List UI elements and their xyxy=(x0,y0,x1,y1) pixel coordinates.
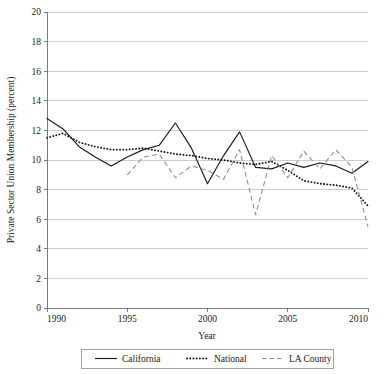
y-tick-label-20: 20 xyxy=(32,7,42,17)
legend-label-national: National xyxy=(214,354,247,364)
gridlines-group xyxy=(47,12,368,278)
series-line-california xyxy=(47,119,368,184)
y-tick-label-14: 14 xyxy=(32,96,42,106)
x-tick-label-1990: 1990 xyxy=(47,314,66,324)
y-tick-marks-group xyxy=(44,12,48,308)
x-axis-title: Year xyxy=(198,331,216,341)
legend-entries-group: CaliforniaNationalLA County xyxy=(95,354,332,364)
y-axis-title: Private Sector Union Membership (percent… xyxy=(6,77,17,244)
data-series-group xyxy=(47,119,368,227)
x-tick-labels-group: 19901995200020052010 xyxy=(47,314,368,324)
x-tick-label-2010: 2010 xyxy=(349,314,368,324)
y-tick-label-0: 0 xyxy=(36,303,41,313)
legend-item-la-county[interactable]: LA County xyxy=(262,354,332,364)
x-tick-label-1995: 1995 xyxy=(118,314,137,324)
legend-label-california: California xyxy=(122,354,161,364)
legend-label-la-county: LA County xyxy=(289,354,332,364)
y-tick-label-10: 10 xyxy=(32,155,42,165)
y-tick-label-4: 4 xyxy=(36,244,41,254)
legend-item-national[interactable]: National xyxy=(187,354,247,364)
line-chart: 02468101214161820 19901995200020052010 P… xyxy=(0,0,384,374)
x-tick-label-2005: 2005 xyxy=(278,314,297,324)
y-tick-label-8: 8 xyxy=(36,185,41,195)
series-line-la-county xyxy=(127,150,368,227)
y-tick-label-18: 18 xyxy=(32,37,42,47)
series-line-national xyxy=(47,133,368,206)
y-tick-labels-group: 02468101214161820 xyxy=(32,7,42,313)
legend-item-california[interactable]: California xyxy=(95,354,161,364)
x-tick-marks-group xyxy=(47,308,368,312)
y-tick-label-16: 16 xyxy=(32,67,42,77)
chart-figure: 02468101214161820 19901995200020052010 P… xyxy=(0,0,384,374)
y-tick-label-2: 2 xyxy=(36,274,41,284)
y-tick-label-12: 12 xyxy=(32,126,42,136)
y-tick-label-6: 6 xyxy=(36,215,41,225)
x-tick-label-2000: 2000 xyxy=(198,314,217,324)
chart-legend: CaliforniaNationalLA County xyxy=(81,349,333,368)
